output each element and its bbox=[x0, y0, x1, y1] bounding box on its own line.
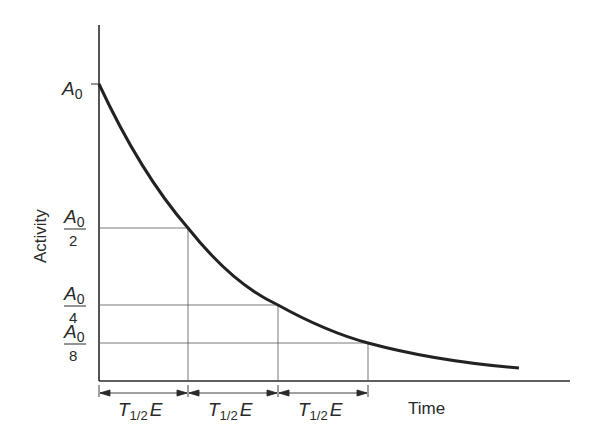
decay-curve bbox=[99, 84, 519, 368]
guide-lines bbox=[99, 228, 368, 381]
svg-text:A0: A0 bbox=[61, 78, 83, 102]
svg-text:A0: A0 bbox=[63, 283, 85, 307]
y-tick-a0-half: A0 2 bbox=[63, 206, 86, 249]
interval-label-1: T1/2E bbox=[118, 399, 163, 423]
x-axis-label: Time bbox=[408, 399, 445, 418]
interval-label-2: T1/2E bbox=[208, 399, 253, 423]
y-tick-a0-eighth: A0 8 bbox=[63, 321, 86, 364]
svg-text:A0: A0 bbox=[63, 206, 85, 230]
svg-text:2: 2 bbox=[69, 232, 77, 249]
interval-arrows bbox=[99, 385, 368, 397]
y-axis-label: Activity bbox=[31, 209, 50, 263]
decay-chart: A0 A0 2 A0 4 A0 8 Activity T1/2E T1/2E T… bbox=[0, 0, 600, 435]
y-tick-a0: A0 bbox=[61, 78, 83, 102]
svg-text:8: 8 bbox=[69, 347, 77, 364]
y-tick-a0-quarter: A0 4 bbox=[63, 283, 86, 326]
interval-label-3: T1/2E bbox=[298, 399, 343, 423]
svg-text:A0: A0 bbox=[63, 321, 85, 345]
